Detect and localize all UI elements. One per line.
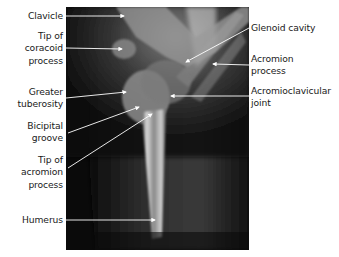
label-clavicle: Clavicle <box>28 10 63 22</box>
label-line: Tip of <box>25 30 63 42</box>
label-line: Acromion <box>251 53 294 65</box>
label-acromion-process: Acromion process <box>251 53 294 78</box>
label-line: Greater <box>18 86 64 98</box>
label-line: Clavicle <box>28 10 63 22</box>
label-line: joint <box>251 97 331 109</box>
leader-coracoid <box>66 48 122 49</box>
label-line: Bicipital <box>27 120 63 132</box>
label-line: Acromioclavicular <box>251 85 331 97</box>
label-acromion-tip: Tip of acromion process <box>21 154 63 191</box>
label-ac-joint: Acromioclavicular joint <box>251 85 331 110</box>
label-line: process <box>21 179 63 191</box>
label-line: tuberosity <box>18 98 64 110</box>
leader-acromion-process <box>213 64 249 65</box>
label-line: acromion <box>21 166 63 178</box>
label-greater-tuberosity: Greater tuberosity <box>18 86 64 111</box>
label-line: process <box>25 55 63 67</box>
label-line: Tip of <box>21 154 63 166</box>
label-line: coracoid <box>25 42 63 54</box>
leader-acromion-tip <box>68 114 152 168</box>
label-line: Humerus <box>22 214 63 226</box>
label-line: groove <box>27 132 63 144</box>
leader-glenoid <box>186 28 249 62</box>
label-line: process <box>251 65 294 77</box>
label-humerus: Humerus <box>22 214 63 226</box>
label-bicipital-groove: Bicipital groove <box>27 120 63 145</box>
label-coracoid: Tip of coracoid process <box>25 30 63 67</box>
leader-greater-tuberosity <box>66 92 126 98</box>
label-line: Glenoid cavity <box>251 22 315 34</box>
label-glenoid: Glenoid cavity <box>251 22 315 34</box>
